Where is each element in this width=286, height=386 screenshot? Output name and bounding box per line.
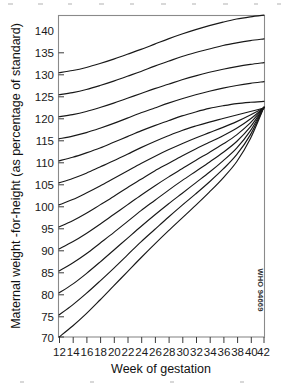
ytick-label: 125 — [35, 91, 54, 103]
ytick-label: 130 — [35, 69, 54, 81]
ytick-label: 120 — [35, 113, 54, 125]
xtick-label: 26 — [149, 346, 162, 358]
ytick-label: 90 — [41, 245, 54, 257]
xtick-label: 40 — [245, 346, 258, 358]
xtick-label: 34 — [204, 346, 217, 358]
x-axis-title: Week of gestation — [111, 362, 211, 376]
ytick-label: 135 — [35, 47, 54, 59]
y-axis-title: Maternal weight -for-height (as percenta… — [9, 23, 23, 329]
xtick-label: 20 — [108, 346, 121, 358]
xtick-label: 28 — [163, 346, 176, 358]
ytick-label: 95 — [41, 223, 54, 235]
xtick-label: 18 — [94, 346, 107, 358]
ytick-label: 75 — [41, 311, 54, 323]
who-code-watermark: WHO 94669 — [256, 268, 265, 311]
xtick-label: 24 — [135, 346, 148, 358]
xtick-label: 42 — [257, 346, 270, 358]
maternal-weight-gestation-chart: 140 135 130 125 120 115 110 105 100 95 9… — [0, 0, 286, 386]
ytick-label: 105 — [35, 179, 54, 191]
ytick-label: 100 — [35, 201, 54, 213]
chart-page: 140 135 130 125 120 115 110 105 100 95 9… — [0, 0, 286, 386]
xtick-label: 22 — [122, 346, 135, 358]
ytick-label: 70 — [41, 332, 54, 344]
ytick-label: 115 — [36, 135, 54, 147]
ytick-label: 110 — [36, 157, 54, 169]
x-axis-tick-labels: 12 14 16 18 20 22 24 26 28 30 32 34 36 3… — [53, 346, 270, 358]
xtick-label: 36 — [218, 346, 231, 358]
xtick-label: 14 — [67, 346, 80, 358]
ytick-label: 85 — [41, 267, 54, 279]
xtick-label: 32 — [190, 346, 203, 358]
xtick-label: 12 — [53, 346, 66, 358]
xtick-label: 30 — [176, 346, 189, 358]
ytick-label: 80 — [41, 289, 54, 301]
xtick-label: 38 — [231, 346, 244, 358]
ytick-label: 140 — [35, 25, 54, 37]
xtick-label: 16 — [81, 346, 94, 358]
